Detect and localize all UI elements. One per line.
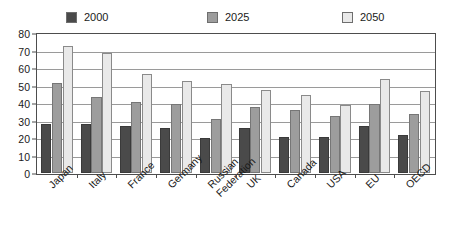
bar (398, 135, 408, 173)
legend-item-2000: 2000 (66, 8, 108, 26)
legend-item-2050: 2050 (342, 8, 384, 26)
bar-group (394, 34, 434, 173)
y-axis-tick-label: 80 (18, 29, 30, 40)
bar (211, 119, 221, 173)
x-axis-tick-mark (275, 174, 276, 178)
bar (319, 137, 329, 173)
y-axis-tick-label: 40 (18, 99, 30, 110)
bar (171, 104, 181, 174)
bar (91, 97, 101, 173)
bar-group (37, 34, 77, 173)
bar (52, 83, 62, 173)
bar-group (196, 34, 236, 173)
x-axis-tick-mark (156, 174, 157, 178)
bar (380, 79, 390, 173)
bar (409, 114, 419, 173)
x-axis-tick-mark (355, 174, 356, 178)
legend-label-2000: 2000 (84, 12, 108, 23)
bar (290, 110, 300, 173)
x-axis-tick-mark (236, 174, 237, 178)
y-axis-tick-label: 10 (18, 151, 30, 162)
bar (160, 128, 170, 173)
bar-group (275, 34, 315, 173)
bar (369, 104, 379, 174)
bar-group (315, 34, 355, 173)
bar (120, 126, 130, 173)
bar (359, 126, 369, 173)
y-axis: 80706050403020100 (0, 33, 36, 174)
bar-group (355, 34, 395, 173)
y-axis-tick-label: 50 (18, 81, 30, 92)
bar (330, 116, 340, 173)
y-axis-tick-label: 20 (18, 134, 30, 145)
bar (340, 105, 350, 173)
bar (279, 137, 289, 173)
bar-chart: 2000 2025 2050 80706050403020100 JapanIt… (0, 0, 452, 235)
bar-group (77, 34, 117, 173)
y-axis-tick-label: 70 (18, 46, 30, 57)
bar (102, 53, 112, 173)
bar (63, 46, 73, 173)
bar-group (156, 34, 196, 173)
bar-group (116, 34, 156, 173)
x-axis: JapanItalyFranceGermanyRussian Federatio… (0, 176, 452, 235)
bar (200, 138, 210, 173)
bar (41, 124, 51, 173)
bar (131, 102, 141, 173)
legend-item-2025: 2025 (207, 8, 249, 26)
x-axis-tick-mark (315, 174, 316, 178)
legend-swatch-2050 (342, 12, 353, 23)
bar (81, 124, 91, 173)
legend-label-2025: 2025 (225, 12, 249, 23)
x-axis-tick-mark (196, 174, 197, 178)
chart-legend: 2000 2025 2050 (0, 8, 452, 28)
y-axis-tick-label: 30 (18, 116, 30, 127)
legend-swatch-2000 (66, 12, 77, 23)
x-axis-tick-mark (77, 174, 78, 178)
legend-label-2050: 2050 (360, 12, 384, 23)
legend-swatch-2025 (207, 12, 218, 23)
x-axis-tick-mark (394, 174, 395, 178)
y-axis-tick-label: 60 (18, 64, 30, 75)
x-axis-tick-mark (116, 174, 117, 178)
